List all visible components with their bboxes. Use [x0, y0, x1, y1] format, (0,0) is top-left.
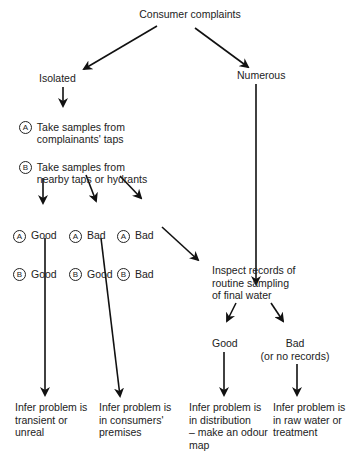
- node-isolated: Isolated: [39, 72, 76, 85]
- node-inspect-records: Inspect records of routine sampling of f…: [212, 264, 295, 302]
- node-numerous: Numerous: [237, 69, 285, 82]
- outcome-bad-good: ABad BGood: [69, 204, 113, 294]
- marker-a: A: [19, 121, 32, 134]
- node-step-b: BTake samples from nearby taps or hydran…: [13, 148, 147, 186]
- node-step-a: ATake samples from complainants' taps: [13, 108, 125, 146]
- outcome-good-good: AGood BGood: [13, 204, 57, 294]
- node-consumer-complaints: Consumer complaints: [120, 8, 260, 21]
- conclusion-distribution: Infer problem is in distribution – make …: [189, 401, 268, 451]
- marker-b: B: [19, 161, 32, 174]
- conclusion-raw-water: Infer problem is in raw water or treatme…: [273, 401, 345, 439]
- node-good: Good: [212, 337, 238, 350]
- conclusion-premises: Infer problem is in consumers' premises: [99, 401, 171, 439]
- node-bad: Bad (or no records): [255, 337, 335, 362]
- conclusion-transient: Infer problem is transient or unreal: [15, 401, 87, 439]
- outcome-bad-bad: ABad BBad: [117, 204, 154, 294]
